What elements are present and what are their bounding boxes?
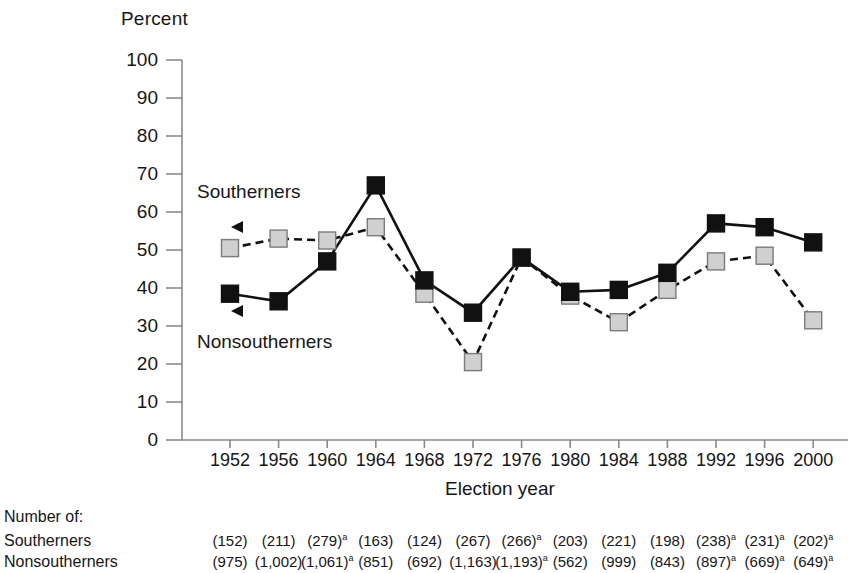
table-cell: (851) — [358, 553, 393, 570]
table-cell: (843) — [650, 553, 685, 570]
table-cell: (202)a — [793, 532, 833, 549]
table-cell: (221) — [601, 532, 636, 549]
x-axis-tick-label: 1992 — [696, 450, 736, 471]
table-cell: (897)a — [696, 553, 736, 570]
footnote-marker: a — [780, 553, 785, 563]
x-axis-tick-label: 1956 — [259, 450, 299, 471]
data-point-marker — [756, 247, 773, 264]
table-row-label: Nonsoutherners — [4, 553, 118, 571]
x-axis-tick-label: 1980 — [550, 450, 590, 471]
table-cell: (1,002) — [255, 553, 303, 570]
table-cell: (203) — [553, 532, 588, 549]
table-cell: (649)a — [793, 553, 833, 570]
table-cell: (238)a — [696, 532, 736, 549]
data-point-marker — [222, 240, 239, 257]
series-label-southerners: Southerners — [197, 181, 301, 203]
footnote-marker: a — [342, 532, 347, 542]
table-cell: (267) — [455, 532, 490, 549]
footnote-marker: a — [780, 532, 785, 542]
x-axis-tick-label: 1988 — [647, 450, 687, 471]
data-point-marker — [270, 230, 287, 247]
x-axis-tick-label: 1984 — [599, 450, 639, 471]
footnote-marker: a — [348, 553, 353, 563]
table-cell: (562) — [553, 553, 588, 570]
table-cell: (163) — [358, 532, 393, 549]
table-cell: (211) — [262, 532, 296, 549]
table-cell: (1,061)a — [301, 553, 354, 570]
table-caption-row: Number of: — [0, 508, 851, 529]
x-axis-tick-label: 2000 — [793, 450, 833, 471]
data-point-marker — [319, 253, 336, 270]
data-point-marker — [367, 177, 384, 194]
table-cell: (124) — [407, 532, 442, 549]
data-point-marker — [513, 249, 530, 266]
data-point-marker — [367, 219, 384, 236]
footnote-marker: a — [828, 553, 833, 563]
data-point-marker — [756, 219, 773, 236]
data-point-marker — [319, 232, 336, 249]
footnote-marker: a — [543, 553, 548, 563]
data-point-marker — [222, 285, 239, 302]
table-row: Southerners (152)(211)(279)a(163)(124)(2… — [0, 532, 851, 553]
series-label-nonsoutherners: Nonsoutherners — [197, 331, 332, 353]
data-point-marker — [610, 281, 627, 298]
table-cell: (198) — [650, 532, 685, 549]
table-caption: Number of: — [4, 508, 83, 526]
data-point-marker — [659, 281, 676, 298]
data-point-marker — [562, 283, 579, 300]
data-point-marker — [465, 304, 482, 321]
data-point-marker — [659, 264, 676, 281]
table-cell: (1,163) — [449, 553, 497, 570]
footnote-marker: a — [731, 553, 736, 563]
data-point-marker — [708, 215, 725, 232]
annotation-arrow-nonsoutherners — [231, 305, 243, 317]
x-axis-tick-label: 1964 — [356, 450, 396, 471]
footnote-marker: a — [828, 532, 833, 542]
plot-area — [0, 0, 851, 470]
table-cell: (1,193)a — [495, 553, 548, 570]
x-axis-tick-label: 1952 — [210, 450, 250, 471]
footnote-marker: a — [537, 532, 542, 542]
x-axis-tick-label: 1960 — [307, 450, 347, 471]
x-axis-tick-label: 1968 — [404, 450, 444, 471]
data-point-marker — [416, 272, 433, 289]
x-axis-tick-label: 1996 — [745, 450, 785, 471]
data-point-marker — [465, 354, 482, 371]
data-point-marker — [805, 234, 822, 251]
footnote-marker: a — [731, 532, 736, 542]
table-cell: (692) — [407, 553, 442, 570]
table-cell: (279)a — [307, 532, 347, 549]
table-cell: (999) — [601, 553, 636, 570]
data-point-marker — [610, 314, 627, 331]
table-row: Nonsoutherners (975)(1,002)(1,061)a(851)… — [0, 553, 851, 573]
election-year-percent-chart: Percent 1009080706050403020100 195219561… — [0, 0, 851, 573]
x-axis-title: Election year — [445, 478, 555, 500]
data-point-marker — [805, 312, 822, 329]
table-cell: (975) — [212, 553, 247, 570]
table-cell: (669)a — [745, 553, 785, 570]
table-row-label: Southerners — [4, 532, 91, 550]
table-cell: (266)a — [502, 532, 542, 549]
x-axis-tick-label: 1976 — [502, 450, 542, 471]
table-cell: (231)a — [745, 532, 785, 549]
data-point-marker — [708, 253, 725, 270]
annotation-arrow-southerners — [231, 221, 243, 233]
table-cell: (152) — [212, 532, 247, 549]
x-axis-tick-label: 1972 — [453, 450, 493, 471]
data-point-marker — [270, 293, 287, 310]
